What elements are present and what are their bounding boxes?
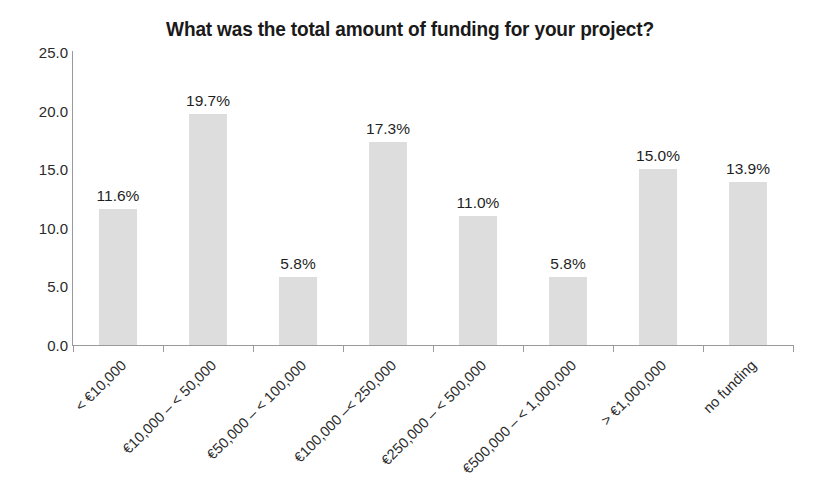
plot-area: 11.6%19.7%5.8%17.3%11.0%5.8%15.0%13.9% [73, 52, 793, 345]
x-axis-tick [73, 345, 74, 352]
y-axis-tick-label: 15.0 [6, 161, 68, 178]
x-axis-tick [613, 345, 614, 352]
x-axis-tick [523, 345, 524, 352]
bar[interactable] [639, 169, 677, 345]
bar[interactable] [549, 277, 587, 345]
bar-group: 11.6% [73, 52, 163, 345]
y-axis-tick-label: 5.0 [6, 278, 68, 295]
y-axis-tick-label: 20.0 [6, 102, 68, 119]
y-axis-tick-label: 25.0 [6, 44, 68, 61]
x-axis-tick [253, 345, 254, 352]
x-axis-tick [703, 345, 704, 352]
x-axis-tick [343, 345, 344, 352]
bar-value-label: 5.8% [550, 255, 585, 273]
bar[interactable] [369, 142, 407, 345]
bar-value-label: 15.0% [636, 147, 680, 165]
x-axis-tick [433, 345, 434, 352]
bar[interactable] [189, 114, 227, 345]
bar[interactable] [99, 209, 137, 345]
bar[interactable] [459, 216, 497, 345]
bar-value-label: 13.9% [726, 160, 770, 178]
bar-group: 13.9% [703, 52, 793, 345]
x-axis-category-label: no funding [607, 357, 760, 502]
x-axis-category-label: < €10,000 [0, 357, 129, 502]
bar-value-label: 5.8% [280, 255, 315, 273]
bar[interactable] [729, 182, 767, 345]
bar-group: 11.0% [433, 52, 523, 345]
x-axis-tick [163, 345, 164, 352]
bar-group: 19.7% [163, 52, 253, 345]
bar-value-label: 11.0% [457, 194, 500, 212]
bar[interactable] [279, 277, 317, 345]
bar-value-label: 19.7% [186, 92, 230, 110]
bar-value-label: 17.3% [366, 120, 410, 138]
bar-group: 15.0% [613, 52, 703, 345]
chart-title: What was the total amount of funding for… [29, 17, 792, 41]
bar-group: 5.8% [253, 52, 343, 345]
bar-group: 5.8% [523, 52, 613, 345]
chart-container: What was the total amount of funding for… [0, 0, 820, 502]
x-axis-category-labels: < €10,000€10,000 – < 50,000€50,000 – < 1… [0, 345, 820, 502]
y-axis-tick-label: 10.0 [6, 219, 68, 236]
bar-group: 17.3% [343, 52, 433, 345]
x-axis-tick [793, 345, 794, 352]
bar-value-label: 11.6% [97, 187, 140, 205]
